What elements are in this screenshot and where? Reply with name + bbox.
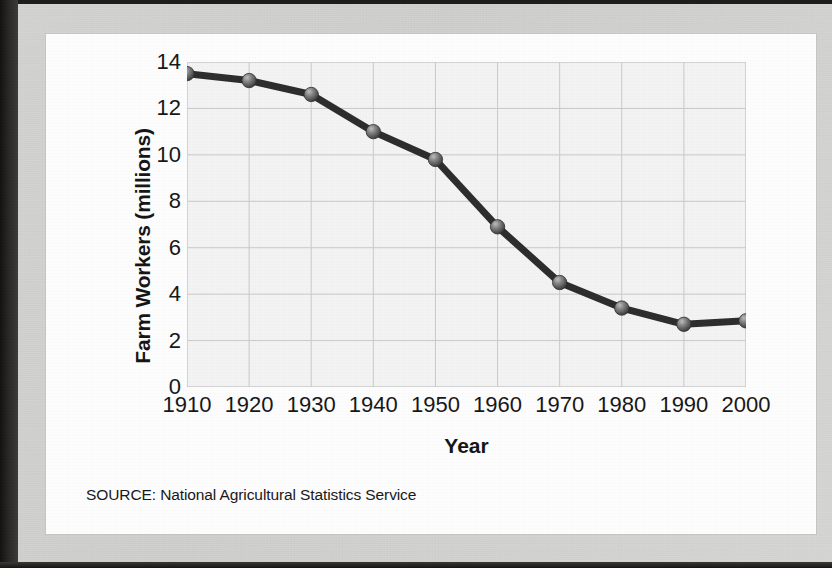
data-point bbox=[242, 73, 256, 87]
x-tick-label: 1940 bbox=[349, 392, 398, 418]
data-markers bbox=[187, 66, 746, 331]
x-tick-label: 1920 bbox=[225, 392, 274, 418]
x-tick-label: 2000 bbox=[722, 392, 771, 418]
data-line bbox=[187, 74, 746, 325]
page-root: Farm Workers (millions) 02468101214 1910… bbox=[0, 0, 832, 568]
gridlines bbox=[187, 62, 746, 387]
data-point bbox=[739, 314, 746, 328]
y-tick-label: 10 bbox=[157, 142, 181, 168]
x-tick-label: 1970 bbox=[535, 392, 584, 418]
x-axis-title: Year bbox=[187, 434, 746, 458]
data-point bbox=[304, 87, 318, 101]
y-tick-label: 6 bbox=[169, 235, 181, 261]
y-tick-label: 12 bbox=[157, 95, 181, 121]
bottom-film-edge bbox=[0, 562, 832, 568]
data-point bbox=[187, 66, 194, 80]
x-tick-label: 1960 bbox=[473, 392, 522, 418]
x-axis-tick-labels: 1910192019301940195019601970198019902000 bbox=[187, 392, 746, 422]
data-point bbox=[428, 152, 442, 166]
data-point bbox=[677, 317, 691, 331]
plot-svg bbox=[187, 62, 746, 387]
x-tick-label: 1950 bbox=[411, 392, 460, 418]
data-point bbox=[615, 301, 629, 315]
y-tick-label: 2 bbox=[169, 328, 181, 354]
source-note: SOURCE: National Agricultural Statistics… bbox=[86, 486, 416, 504]
plot-frame bbox=[187, 62, 746, 387]
x-tick-label: 1930 bbox=[287, 392, 336, 418]
left-film-edge bbox=[0, 0, 18, 568]
data-point bbox=[490, 220, 504, 234]
chart-figure: Farm Workers (millions) 02468101214 1910… bbox=[46, 34, 816, 534]
y-tick-label: 14 bbox=[157, 49, 181, 75]
data-point bbox=[366, 124, 380, 138]
y-axis-tick-labels: 02468101214 bbox=[141, 62, 181, 387]
x-tick-label: 1990 bbox=[659, 392, 708, 418]
y-tick-label: 4 bbox=[169, 281, 181, 307]
x-tick-label: 1910 bbox=[163, 392, 212, 418]
plot-area bbox=[187, 62, 746, 387]
chart-card: Farm Workers (millions) 02468101214 1910… bbox=[46, 34, 816, 534]
x-tick-label: 1980 bbox=[597, 392, 646, 418]
y-tick-label: 8 bbox=[169, 188, 181, 214]
data-point bbox=[552, 275, 566, 289]
